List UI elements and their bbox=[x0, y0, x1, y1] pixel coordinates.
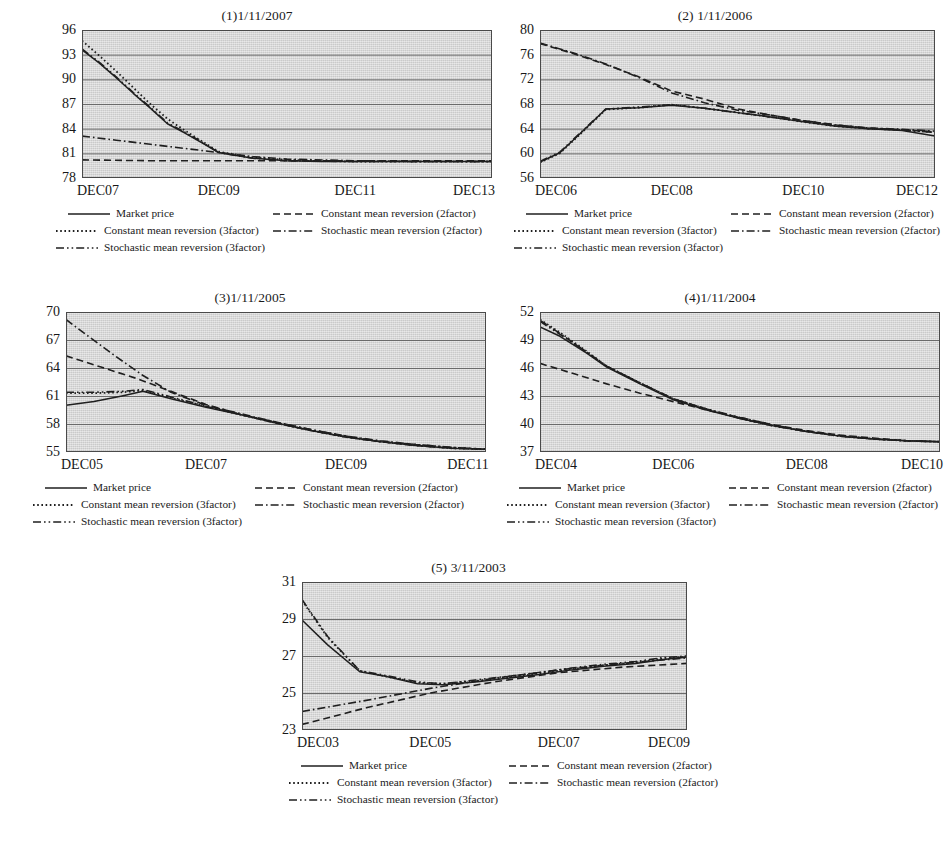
legend-label: Stochastic mean reversion (3factor) bbox=[337, 794, 498, 805]
plot-area: 56606468727680DEC06DEC08DEC10DEC12 bbox=[495, 30, 935, 208]
legend-swatch-dashdotdot-icon bbox=[288, 795, 332, 805]
y-tick-label: 43 bbox=[520, 389, 534, 403]
series-line-dotted bbox=[82, 41, 492, 162]
legend-label: Constant mean reversion (2factor) bbox=[777, 482, 932, 493]
x-tick-label: DEC04 bbox=[535, 458, 577, 472]
legend-label: Constant mean reversion (2factor) bbox=[557, 760, 712, 771]
legend-swatch-dotted-icon bbox=[288, 778, 332, 788]
legend-swatch-dashed-icon bbox=[508, 761, 552, 771]
x-tick-label: DEC07 bbox=[185, 458, 227, 472]
chart-title: (5) 3/11/2003 bbox=[250, 560, 687, 576]
legend-swatch-dotted-icon bbox=[506, 500, 550, 510]
legend-label: Stochastic mean reversion (3factor) bbox=[555, 516, 716, 527]
series-line-dashdot bbox=[540, 320, 940, 441]
legend-swatch-dashdot-icon bbox=[730, 226, 774, 236]
legend-swatch-dashed-icon bbox=[728, 483, 772, 493]
y-tick-label: 90 bbox=[62, 72, 76, 86]
legend-label: Stochastic mean reversion (2factor) bbox=[557, 777, 718, 788]
x-tick-label: DEC07 bbox=[538, 736, 580, 750]
legend-item-smr3: Stochastic mean reversion (3factor) bbox=[32, 516, 242, 527]
legend-item-market: Market price bbox=[525, 208, 632, 219]
y-axis-labels: 374043464952 bbox=[500, 312, 534, 452]
y-tick-label: 27 bbox=[282, 649, 296, 663]
legend-item-smr3: Stochastic mean reversion (3factor) bbox=[55, 242, 265, 253]
legend-label: Constant mean reversion (3factor) bbox=[337, 777, 492, 788]
x-tick-label: DEC03 bbox=[297, 736, 339, 750]
x-tick-label: DEC08 bbox=[651, 184, 693, 198]
legend-label: Constant mean reversion (2factor) bbox=[303, 482, 458, 493]
x-tick-label: DEC13 bbox=[453, 184, 495, 198]
y-tick-label: 64 bbox=[46, 361, 60, 375]
series-line-solid bbox=[82, 50, 492, 162]
plot-area: 555861646770DEC05DEC07DEC09DEC11 bbox=[14, 312, 486, 482]
legend-item-cmr3: Constant mean reversion (3factor) bbox=[513, 225, 717, 236]
plot-canvas bbox=[302, 582, 687, 730]
legend-item-cmr3: Constant mean reversion (3factor) bbox=[55, 225, 259, 236]
legend-item-market: Market price bbox=[518, 482, 625, 493]
y-tick-label: 37 bbox=[520, 445, 534, 459]
y-tick-label: 52 bbox=[520, 305, 534, 319]
series-line-dashdotdot bbox=[302, 600, 687, 684]
y-tick-label: 29 bbox=[282, 612, 296, 626]
legend-label: Market price bbox=[93, 482, 151, 493]
x-tick-label: DEC12 bbox=[896, 184, 938, 198]
y-axis-labels: 56606468727680 bbox=[495, 30, 534, 178]
legend-swatch-dashdot-icon bbox=[272, 226, 316, 236]
legend-label: Stochastic mean reversion (2factor) bbox=[777, 499, 938, 510]
plot-canvas bbox=[82, 30, 492, 178]
x-tick-label: DEC08 bbox=[786, 458, 828, 472]
legend-label: Stochastic mean reversion (2factor) bbox=[779, 225, 940, 236]
chart-panel-1: (1)1/11/200778818487909396DEC07DEC09DEC1… bbox=[22, 8, 504, 268]
legend-label: Constant mean reversion (3factor) bbox=[555, 499, 710, 510]
legend-swatch-solid-icon bbox=[525, 209, 569, 219]
y-tick-label: 56 bbox=[520, 171, 534, 185]
x-tick-label: DEC06 bbox=[535, 184, 577, 198]
series-line-solid bbox=[302, 620, 687, 685]
legend-item-cmr3: Constant mean reversion (3factor) bbox=[288, 777, 492, 788]
series-line-dashdot bbox=[82, 136, 492, 161]
y-tick-label: 76 bbox=[520, 48, 534, 62]
chart-legend: Market priceConstant mean reversion (2fa… bbox=[250, 760, 687, 816]
chart-legend: Market priceConstant mean reversion (2fa… bbox=[22, 208, 492, 264]
legend-label: Constant mean reversion (2factor) bbox=[321, 208, 476, 219]
x-tick-label: DEC05 bbox=[61, 458, 103, 472]
legend-item-cmr2: Constant mean reversion (2factor) bbox=[508, 760, 712, 771]
legend-item-smr2: Stochastic mean reversion (2factor) bbox=[272, 225, 482, 236]
legend-label: Stochastic mean reversion (2factor) bbox=[303, 499, 464, 510]
legend-item-cmr2: Constant mean reversion (2factor) bbox=[728, 482, 932, 493]
x-tick-label: DEC09 bbox=[648, 736, 690, 750]
y-tick-label: 78 bbox=[62, 171, 76, 185]
y-tick-label: 84 bbox=[62, 122, 76, 136]
y-axis-labels: 555861646770 bbox=[14, 312, 60, 452]
series-line-dashdotdot bbox=[82, 49, 492, 162]
legend-label: Stochastic mean reversion (3factor) bbox=[562, 242, 723, 253]
legend-swatch-dashdotdot-icon bbox=[55, 243, 99, 253]
legend-label: Constant mean reversion (3factor) bbox=[104, 225, 259, 236]
legend-swatch-dotted-icon bbox=[513, 226, 557, 236]
legend-swatch-dashed-icon bbox=[272, 209, 316, 219]
chart-legend: Market priceConstant mean reversion (2fa… bbox=[495, 208, 935, 264]
series-line-dashed bbox=[66, 356, 486, 449]
legend-swatch-dashdotdot-icon bbox=[506, 517, 550, 527]
plot-area: 2325272931DEC03DEC05DEC07DEC09 bbox=[250, 582, 687, 760]
legend-item-market: Market price bbox=[300, 760, 407, 771]
x-tick-label: DEC09 bbox=[325, 458, 367, 472]
chart-title: (3)1/11/2005 bbox=[14, 290, 486, 306]
legend-item-cmr3: Constant mean reversion (3factor) bbox=[32, 499, 236, 510]
legend-item-cmr2: Constant mean reversion (2factor) bbox=[272, 208, 476, 219]
legend-swatch-dotted-icon bbox=[55, 226, 99, 236]
chart-panel-5: (5) 3/11/20032325272931DEC03DEC05DEC07DE… bbox=[250, 560, 699, 820]
legend-label: Constant mean reversion (3factor) bbox=[81, 499, 236, 510]
y-tick-label: 55 bbox=[46, 445, 60, 459]
x-tick-label: DEC05 bbox=[409, 736, 451, 750]
y-tick-label: 31 bbox=[282, 575, 296, 589]
legend-item-market: Market price bbox=[67, 208, 174, 219]
x-tick-label: DEC09 bbox=[198, 184, 240, 198]
x-tick-label: DEC06 bbox=[652, 458, 694, 472]
y-tick-label: 96 bbox=[62, 23, 76, 37]
legend-label: Stochastic mean reversion (3factor) bbox=[104, 242, 265, 253]
series-line-dotted bbox=[540, 319, 940, 441]
x-tick-label: DEC10 bbox=[901, 458, 943, 472]
chart-title: (4)1/11/2004 bbox=[500, 290, 940, 306]
legend-item-smr3: Stochastic mean reversion (3factor) bbox=[513, 242, 723, 253]
